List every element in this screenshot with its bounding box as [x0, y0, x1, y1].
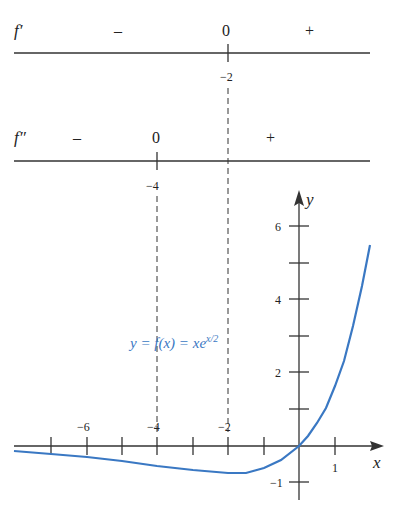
x-tick-label-1: 1	[332, 461, 338, 475]
f-double-prime-critical-label: −4	[146, 179, 159, 193]
second-derivative-sign-chart: f″ – 0 + −4	[14, 128, 370, 193]
f-prime-right-sign: +	[305, 22, 314, 39]
first-derivative-sign-chart: f′ – 0 + −2	[14, 21, 370, 84]
y-tick-label-4: 4	[275, 293, 281, 307]
y-tick-label-2: 2	[275, 366, 281, 380]
x-axis-arrow-icon	[370, 441, 384, 451]
figure: f′ – 0 + −2 f″ – 0 + −4 x y	[0, 0, 398, 510]
x-tick-label-minus-2: −2	[218, 420, 231, 434]
x-tick-label-minus-4: −4	[147, 420, 160, 434]
equation-label: y = f(x) = xex/2	[128, 333, 218, 352]
f-double-prime-zero: 0	[152, 129, 160, 146]
function-curve	[14, 245, 370, 473]
y-tick-label-minus-1: −1	[270, 476, 283, 490]
f-double-prime-left-sign: –	[72, 129, 82, 146]
f-double-prime-label: f″	[14, 128, 27, 147]
y-axis-label: y	[304, 190, 314, 209]
f-prime-critical-label: −2	[220, 70, 233, 84]
f-prime-label: f′	[14, 21, 23, 40]
x-tick-label-minus-6: −6	[77, 420, 90, 434]
y-tick-label-6: 6	[275, 220, 281, 234]
f-prime-zero: 0	[222, 22, 230, 39]
f-prime-left-sign: –	[113, 22, 123, 39]
f-double-prime-right-sign: +	[266, 129, 275, 146]
x-axis-label: x	[372, 453, 381, 472]
